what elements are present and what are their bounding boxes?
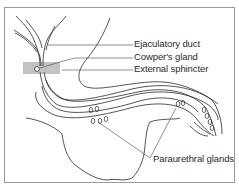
paraurethral-gland-ovals (89, 100, 214, 130)
external-sphincter-hatching (23, 63, 60, 73)
label-external-sphincter: External sphincter (134, 63, 208, 74)
body-outline (26, 118, 180, 180)
label-paraurethral-glands: Paraurethral glands (153, 153, 234, 164)
urethra-channel (36, 72, 222, 136)
label-cowpers-gland: Cowper's gland (134, 51, 198, 62)
prostate-ducts (14, 16, 66, 66)
label-ejaculatory-duct: Ejaculatory duct (134, 38, 200, 49)
cowpers-gland-shape (35, 67, 40, 72)
